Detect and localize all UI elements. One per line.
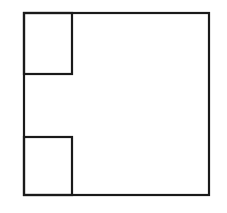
outer-square bbox=[24, 13, 209, 195]
corner-square-top-left bbox=[24, 13, 72, 74]
corner-square-bottom-left bbox=[24, 137, 72, 195]
diagram-canvas bbox=[0, 0, 227, 213]
